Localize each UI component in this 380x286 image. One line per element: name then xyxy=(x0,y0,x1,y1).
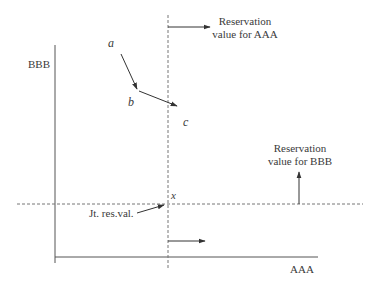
x-axis-label: AAA xyxy=(290,263,314,276)
aaa-annotation-line1: Reservation xyxy=(205,15,285,28)
aaa-reservation-annotation: Reservation value for AAA xyxy=(205,15,285,41)
joint-reservation-label: Jt. res.val. xyxy=(89,207,134,220)
arrow-b-to-c xyxy=(139,91,177,106)
point-c-label: c xyxy=(183,116,188,129)
aaa-annotation-line2: value for AAA xyxy=(205,28,285,41)
y-axis-label: BBB xyxy=(28,58,50,71)
point-a-label: a xyxy=(108,37,114,50)
arrow-a-to-b xyxy=(121,54,137,89)
bbb-annotation-line2: value for BBB xyxy=(262,155,338,168)
bbb-reservation-annotation: Reservation value for BBB xyxy=(262,142,338,168)
joint-arrow xyxy=(137,205,164,213)
point-x-label: x xyxy=(171,189,176,202)
point-b-label: b xyxy=(128,96,134,109)
bbb-annotation-line1: Reservation xyxy=(262,142,338,155)
